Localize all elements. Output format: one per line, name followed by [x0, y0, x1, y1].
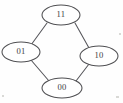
speck — [2, 95, 4, 97]
lattice-diagram-figure: 11 01 10 00 — [0, 0, 123, 103]
speck — [119, 33, 121, 35]
lattice-diagram-canvas: 11 01 10 00 — [0, 0, 123, 103]
edge-11-to-01 — [31, 23, 47, 45]
node-label-bottom: 00 — [57, 82, 66, 92]
node-label-top: 11 — [57, 9, 66, 19]
node-left[interactable]: 01 — [2, 42, 40, 62]
node-label-right: 10 — [94, 50, 103, 60]
edge-01-to-00 — [31, 60, 49, 81]
node-label-left: 01 — [16, 46, 25, 56]
node-top[interactable]: 11 — [42, 5, 80, 25]
node-bottom[interactable]: 00 — [42, 78, 82, 98]
speck — [116, 96, 119, 98]
edge-10-to-00 — [76, 64, 89, 81]
edge-11-to-10 — [75, 23, 89, 48]
node-right[interactable]: 10 — [80, 46, 118, 66]
